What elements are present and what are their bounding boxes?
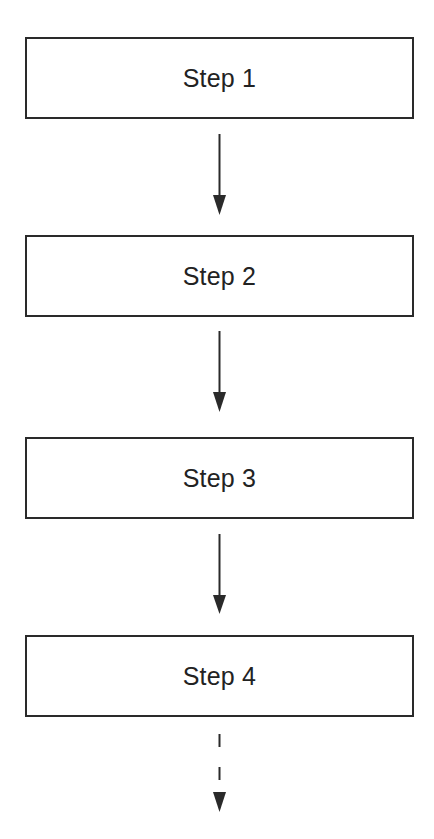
arrow-step3-to-step4 — [213, 534, 226, 614]
connectors — [0, 0, 434, 839]
arrow-step1-to-step2 — [213, 134, 226, 215]
dashed-arrow-continuation — [213, 734, 226, 812]
arrow-step2-to-step3 — [213, 331, 226, 412]
